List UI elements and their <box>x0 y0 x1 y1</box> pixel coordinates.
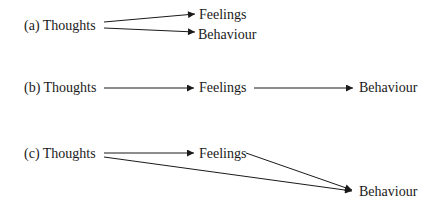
diagram-c-behaviour-node: Behaviour <box>359 184 418 199</box>
diagram-b: (b) Thoughts Feelings Behaviour <box>24 80 418 96</box>
diagram-a-feelings-node: Feelings <box>199 7 246 22</box>
diagram-a-arrow-thoughts-to-behaviour <box>104 28 195 32</box>
diagram-a-thoughts-label: (a) Thoughts <box>24 18 96 34</box>
diagram-a-behaviour-node: Behaviour <box>198 27 257 42</box>
diagram-a: (a) Thoughts Feelings Behaviour <box>24 7 257 42</box>
diagram-a-arrow-thoughts-to-feelings <box>104 14 195 22</box>
diagram-c: (c) Thoughts Feelings Behaviour <box>24 146 418 199</box>
diagram-c-arrow-thoughts-to-behaviour <box>104 157 352 191</box>
diagram-c-arrow-feelings-to-behaviour <box>246 153 352 190</box>
thoughts-feelings-behaviour-diagram: (a) Thoughts Feelings Behaviour (b) Thou… <box>0 0 438 205</box>
diagram-b-thoughts-label: (b) Thoughts <box>24 80 96 96</box>
diagram-b-behaviour-node: Behaviour <box>359 80 418 95</box>
diagram-c-feelings-node: Feelings <box>199 146 246 161</box>
diagram-c-thoughts-label: (c) Thoughts <box>24 146 96 162</box>
diagram-b-feelings-node: Feelings <box>199 80 246 95</box>
